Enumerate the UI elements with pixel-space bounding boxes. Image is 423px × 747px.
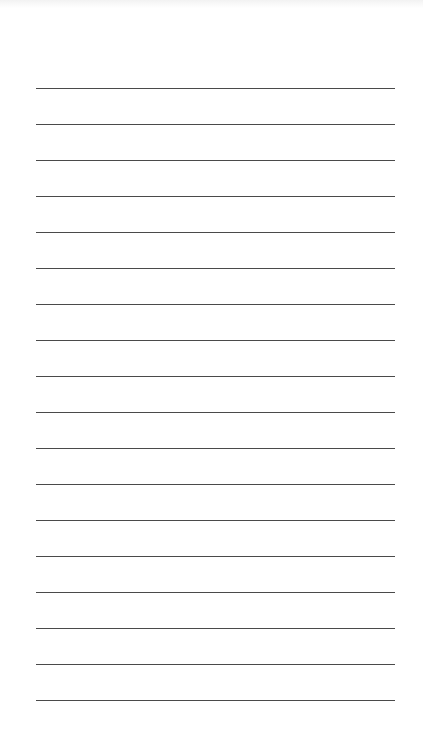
- ruled-line: [36, 196, 395, 197]
- top-bleed-through-band: [0, 0, 423, 8]
- ruled-line: [36, 556, 395, 557]
- ruled-line: [36, 124, 395, 125]
- ruled-line: [36, 448, 395, 449]
- ruled-line: [36, 592, 395, 593]
- ruled-line: [36, 232, 395, 233]
- ruled-line: [36, 700, 395, 701]
- ruled-line: [36, 88, 395, 89]
- lined-paper-page: [0, 0, 423, 747]
- ruled-line: [36, 340, 395, 341]
- ruled-line: [36, 664, 395, 665]
- ruled-line: [36, 484, 395, 485]
- ruled-line: [36, 160, 395, 161]
- ruled-line: [36, 628, 395, 629]
- ruled-line: [36, 376, 395, 377]
- ruled-line: [36, 268, 395, 269]
- ruled-line: [36, 304, 395, 305]
- ruled-line: [36, 520, 395, 521]
- ruled-line: [36, 412, 395, 413]
